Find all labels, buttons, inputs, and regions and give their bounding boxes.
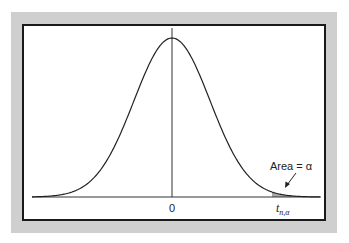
density-curve xyxy=(32,38,320,197)
critical-value-label: tn,α xyxy=(276,201,290,217)
area-alpha-label: Area = α xyxy=(270,160,313,172)
t-distribution-plot: 0 tn,α Area = α xyxy=(0,0,349,243)
zero-tick-label: 0 xyxy=(169,202,175,214)
